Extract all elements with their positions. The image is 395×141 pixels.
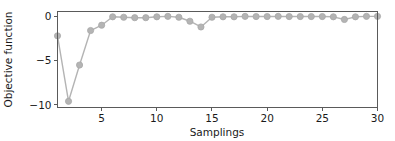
- data-point-marker: [341, 16, 347, 22]
- y-tick-label: 0: [45, 10, 52, 22]
- y-tick-label: −5: [36, 54, 51, 66]
- data-point-marker: [198, 24, 204, 30]
- data-point-marker: [209, 14, 215, 20]
- data-point-marker: [165, 13, 171, 19]
- data-point-marker: [99, 22, 105, 28]
- data-point-marker: [143, 15, 149, 21]
- data-point-marker: [110, 14, 116, 20]
- data-point-marker: [76, 62, 82, 68]
- x-tick-label: 5: [98, 112, 105, 124]
- data-point-marker: [176, 14, 182, 20]
- data-point-marker: [187, 18, 193, 24]
- data-point-marker: [231, 14, 237, 20]
- data-point-marker: [154, 14, 160, 20]
- data-point-marker: [297, 13, 303, 19]
- data-point-marker: [65, 98, 71, 104]
- x-tick-label: 15: [205, 112, 218, 124]
- y-axis-title: Objective function: [2, 11, 14, 107]
- x-axis-ticks: 51015202530: [98, 108, 384, 124]
- x-axis-title: Samplings: [190, 126, 245, 138]
- data-point-marker: [330, 14, 336, 20]
- data-point-marker: [319, 13, 325, 19]
- data-point-marker: [352, 14, 358, 20]
- objective-function-line-chart: 51015202530 0−5−10 Samplings Objective f…: [0, 0, 395, 141]
- x-tick-label: 10: [150, 112, 163, 124]
- y-axis-ticks: 0−5−10: [29, 10, 57, 110]
- data-point-marker: [308, 13, 314, 19]
- data-point-marker: [363, 13, 369, 19]
- data-point-marker: [286, 13, 292, 19]
- data-point-marker: [132, 15, 138, 21]
- plot-background: [57, 11, 378, 108]
- x-tick-label: 20: [260, 112, 273, 124]
- chart-figure: 51015202530 0−5−10 Samplings Objective f…: [0, 0, 395, 141]
- data-point-marker: [264, 13, 270, 19]
- y-tick-label: −10: [29, 99, 51, 111]
- data-point-marker: [88, 27, 94, 33]
- data-point-marker: [220, 14, 226, 20]
- data-point-marker: [242, 13, 248, 19]
- data-point-marker: [121, 14, 127, 20]
- data-point-marker: [275, 13, 281, 19]
- x-tick-label: 30: [371, 112, 384, 124]
- data-point-marker: [253, 13, 259, 19]
- x-tick-label: 25: [316, 112, 329, 124]
